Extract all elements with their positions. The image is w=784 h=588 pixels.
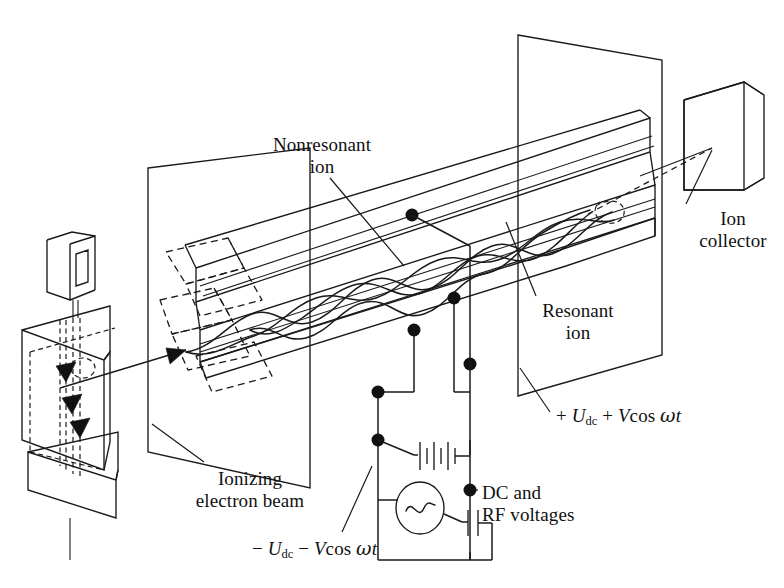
neg-rf-function: cos <box>326 538 352 559</box>
quadrupole-mass-spectrometer-diagram <box>0 0 784 588</box>
label-resonant-ion: Resonant ion <box>528 300 628 345</box>
ion-source-assembly <box>22 232 118 560</box>
neg-dc-symbol: U <box>268 538 282 559</box>
pos-time: t <box>676 405 681 426</box>
ionizing-beam-line1: Ionizing <box>175 468 325 490</box>
nonresonant-ion-line1: Nonresonant <box>258 134 386 156</box>
pos-dc-symbol: U <box>572 405 586 426</box>
neg-rf-symbol: V <box>314 538 326 559</box>
neg-omega: ω <box>356 537 372 559</box>
entrance-aperture-plane <box>148 148 310 488</box>
neg-minus: − <box>298 538 309 559</box>
pos-rf-function: cos <box>630 405 656 426</box>
ion-collector-line2: collector <box>690 230 776 252</box>
dc-rf-line2: RF voltages <box>482 504 602 526</box>
ac-generator-symbol <box>396 482 444 534</box>
pos-dc-subscript: dc <box>586 414 598 428</box>
ion-collector-slab <box>684 82 764 190</box>
pos-sign: + <box>556 405 567 426</box>
resonant-ion-line1: Resonant <box>528 300 628 322</box>
neg-dc-subscript: dc <box>282 547 294 561</box>
dc-rf-line1: DC and <box>482 482 602 504</box>
ion-beam-entry-arrow <box>60 348 186 388</box>
label-positive-voltage: + Udc + Vcos ωt <box>556 404 681 429</box>
resonant-ion-line2: ion <box>528 322 628 344</box>
label-ionizing-electron-beam: Ionizing electron beam <box>175 468 325 513</box>
figure-root: Nonresonant ion Ion collector Resonant i… <box>0 0 784 588</box>
neg-sign: − <box>252 538 263 559</box>
neg-time: t <box>372 538 377 559</box>
label-nonresonant-ion: Nonresonant ion <box>258 134 386 179</box>
ion-path-to-collector <box>588 148 712 214</box>
pos-omega: ω <box>660 404 676 426</box>
rod-connection-wires <box>378 209 477 393</box>
label-ion-collector: Ion collector <box>690 208 776 253</box>
pos-plus: + <box>602 405 613 426</box>
label-dc-rf-voltages: DC and RF voltages <box>482 482 602 527</box>
junction-node-1 <box>372 386 385 399</box>
circuit-wiring <box>372 386 493 561</box>
dc-battery-symbol <box>414 442 470 470</box>
pos-rf-symbol: V <box>618 405 630 426</box>
ionizing-beam-line2: electron beam <box>175 490 325 512</box>
nonresonant-ion-line2: ion <box>258 156 386 178</box>
ion-collector-line1: Ion <box>690 208 776 230</box>
label-negative-voltage: − Udc − Vcos ωt <box>252 537 377 562</box>
